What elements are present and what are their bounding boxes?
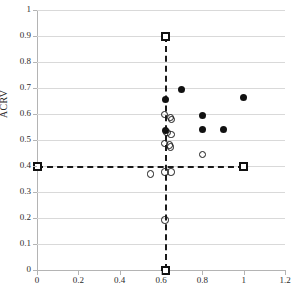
y-axis-tick xyxy=(33,218,37,219)
y-axis-tick xyxy=(33,166,37,167)
x-axis-tick-label: 1.2 xyxy=(270,276,299,285)
plot-area xyxy=(37,10,285,270)
y-axis-tick xyxy=(33,10,37,11)
y-axis-tick xyxy=(33,114,37,115)
data-point-open-circle xyxy=(167,143,175,151)
data-point-filled-circle xyxy=(178,86,185,93)
y-axis-tick-label: 0.4 xyxy=(5,161,31,170)
x-axis-tick-label: 0.8 xyxy=(187,276,217,285)
data-point-filled-circle xyxy=(220,126,227,133)
gridline-horizontal xyxy=(37,10,285,11)
data-point-open-circle xyxy=(147,170,155,178)
gridline-horizontal xyxy=(37,88,285,89)
y-axis-tick-label: 0.6 xyxy=(5,109,31,118)
y-axis-tick-label: 0.5 xyxy=(5,135,31,144)
x-axis-tick-label: 0.4 xyxy=(105,276,135,285)
y-axis-tick-label: 0.9 xyxy=(5,31,31,40)
y-axis-tick-label: 0.7 xyxy=(5,83,31,92)
x-axis-tick-label: 1 xyxy=(229,276,259,285)
y-axis-tick xyxy=(33,88,37,89)
y-axis-tick-label: 1 xyxy=(5,5,31,14)
data-point-open-square xyxy=(239,162,248,171)
y-axis-tick-label: 0.8 xyxy=(5,57,31,66)
y-axis-tick xyxy=(33,192,37,193)
y-axis-tick xyxy=(33,62,37,63)
x-axis-tick-label: 0.6 xyxy=(146,276,176,285)
data-point-open-circle xyxy=(161,216,169,224)
y-axis-tick-label: 0.3 xyxy=(5,187,31,196)
y-axis-tick xyxy=(33,36,37,37)
gridline-horizontal xyxy=(37,62,285,63)
data-point-open-square xyxy=(161,32,170,41)
gridline-horizontal xyxy=(37,192,285,193)
reference-line-vertical xyxy=(165,36,167,270)
data-point-filled-circle xyxy=(199,112,206,119)
reference-line-horizontal xyxy=(37,166,244,168)
x-axis-tick-label: 0 xyxy=(22,276,52,285)
x-axis-tick-label: 0.2 xyxy=(63,276,93,285)
data-point-open-circle xyxy=(167,168,175,176)
gridline-horizontal xyxy=(37,244,285,245)
data-point-open-circle xyxy=(199,151,207,159)
data-point-open-circle xyxy=(167,131,175,139)
y-axis-tick-label: 0 xyxy=(5,265,31,274)
scatter-chart: ACRV 00.10.20.30.40.50.60.70.80.9100.20.… xyxy=(0,0,299,298)
data-point-filled-circle xyxy=(199,126,206,133)
y-axis-tick-label: 0.1 xyxy=(5,239,31,248)
data-point-filled-circle xyxy=(162,96,169,103)
y-axis-tick xyxy=(33,140,37,141)
y-axis-tick-label: 0.2 xyxy=(5,213,31,222)
y-axis-tick xyxy=(33,244,37,245)
data-point-open-circle xyxy=(168,116,176,124)
data-point-filled-circle xyxy=(240,94,247,101)
